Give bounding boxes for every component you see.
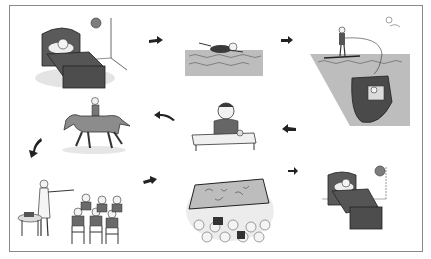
clock-icon — [91, 18, 101, 28]
sun-icon — [386, 17, 392, 23]
arrow-left-icon — [281, 124, 297, 134]
panel-classroom — [16, 178, 128, 248]
panel-eating-meal — [188, 99, 260, 151]
panel-sleeping-bed-end — [322, 163, 398, 233]
arrow-left-curved-icon — [154, 110, 176, 122]
arrow-right-icon — [280, 36, 294, 45]
panel-swimming — [185, 40, 263, 76]
panel-cinema — [185, 175, 275, 243]
arrow-right-icon — [142, 176, 158, 186]
panel-sleeping-bed — [33, 14, 133, 92]
panel-water-skiing — [310, 14, 410, 126]
arrow-down-left-icon — [27, 137, 43, 159]
clock-icon — [375, 166, 385, 176]
panel-horse-riding — [60, 96, 132, 156]
arrow-right-icon — [148, 36, 164, 46]
arrow-right-icon — [287, 167, 299, 175]
